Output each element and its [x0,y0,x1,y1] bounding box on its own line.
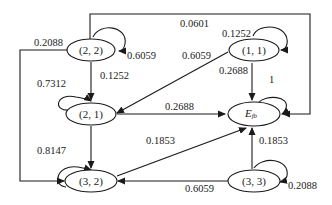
state-diagram: 0.0601 0.6059 0.2088 0.1252 0.1252 0.605… [0,0,332,205]
node-2-1: (2, 1) [66,103,116,125]
edge-22-to-efb [90,14,310,114]
edge-label-21-efb: 0.2688 [165,101,194,112]
node-label: (3, 3) [242,175,266,188]
edge-32-to-efb [117,128,246,176]
edge-label-22-efb: 0.0601 [180,18,209,29]
edge-label-22-21: 0.1252 [100,70,129,81]
edge-label-11-self: 0.1252 [222,28,251,39]
edge-label-22-self: 0.6059 [127,50,156,61]
edge-label-21-32: 0.8147 [37,145,66,156]
node-label: (2, 1) [79,108,103,121]
edge-label-32-efb: 0.1853 [146,135,175,146]
node-label: (3, 2) [79,175,103,188]
edge-label-21-self: 0.7312 [37,78,66,89]
node-2-2: (2, 2) [67,39,115,61]
edge-label-33-self: 0.2088 [288,180,317,191]
edge-label-22-32: 0.2088 [34,37,63,48]
node-label: (1, 1) [242,44,266,57]
node-label: (2, 2) [79,44,103,57]
edge-label-33-efb: 0.1853 [259,135,288,146]
edge-label-11-efb: 0.2688 [219,65,248,76]
node-3-3: (3, 3) [228,170,280,192]
edge-label-11-21: 0.6059 [182,50,211,61]
node-3-2: (3, 2) [65,170,117,192]
node-1-1: (1, 1) [229,39,279,61]
edge-label-33-32: 0.6059 [185,183,214,194]
node-e-fb: Efb [228,102,280,126]
edge-label-efb-self: 1 [269,74,274,85]
edge-22-to-32 [20,50,68,181]
